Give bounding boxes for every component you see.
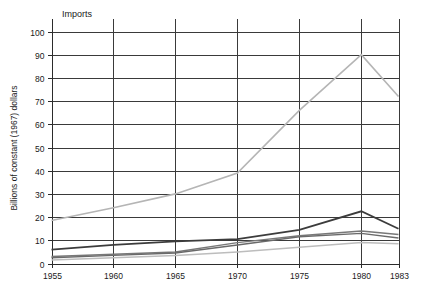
y-tick-label-30: 30 — [35, 190, 45, 200]
x-tick-label-1983: 1983 — [390, 271, 409, 281]
x-tick-label-1965: 1965 — [166, 271, 185, 281]
imports-line-chart: 0102030405060708090100 19551960196519701… — [0, 0, 421, 301]
x-tick-label-1960: 1960 — [104, 271, 123, 281]
y-axis-tick-labels: 0102030405060708090100 — [30, 28, 44, 270]
y-tick-label-20: 20 — [35, 213, 45, 223]
chart-plot-area: 0102030405060708090100 19551960196519701… — [0, 0, 421, 301]
y-tick-label-80: 80 — [35, 74, 45, 84]
y-tick-label-70: 70 — [35, 97, 45, 107]
y-tick-label-50: 50 — [35, 144, 45, 154]
y-tick-label-100: 100 — [30, 28, 44, 38]
y-tick-label-0: 0 — [40, 260, 45, 270]
y-tick-label-10: 10 — [35, 236, 45, 246]
y-tick-marks — [48, 33, 52, 265]
y-tick-label-40: 40 — [35, 167, 45, 177]
x-axis-tick-labels: 1955196019651970197519801983 — [43, 271, 409, 281]
x-tick-label-1970: 1970 — [228, 271, 247, 281]
chart-title: Imports — [62, 9, 93, 19]
x-tick-label-1955: 1955 — [43, 271, 62, 281]
y-tick-label-90: 90 — [35, 51, 45, 61]
line-series-1 — [52, 55, 399, 221]
x-tick-label-1980: 1980 — [352, 271, 371, 281]
data-series-group — [52, 55, 399, 260]
x-tick-label-1975: 1975 — [290, 271, 309, 281]
y-tick-label-60: 60 — [35, 120, 45, 130]
y-axis-label: Billions of constant (1967) dollars — [9, 85, 19, 210]
